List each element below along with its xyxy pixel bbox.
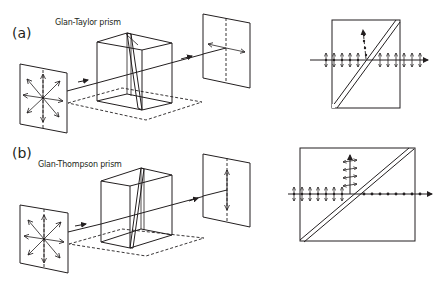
beam-in-a [67,83,97,91]
detail-view-b [288,148,432,242]
output-screen-b [203,154,250,227]
floor-plane-b [69,229,204,256]
panel-a [20,14,428,133]
reflected-beam-b [343,155,357,194]
beam-in-b [68,224,101,232]
beam-direction-arrow-icon [75,224,86,226]
reflected-beam-a [363,30,367,59]
output-screen-a [203,14,250,88]
detail-view-a [310,20,428,108]
diagram-canvas [0,0,444,285]
beam-direction-arrow-icon [78,80,88,82]
input-screen-a [20,64,67,133]
glan-taylor-prism [97,33,172,110]
floor-plane-a [68,88,202,120]
panel-b [20,148,432,273]
input-screen-b [20,205,68,273]
polarizing-prism-figure: (a) Glan-Taylor prism (b) Glan-Thompson … [0,0,444,285]
